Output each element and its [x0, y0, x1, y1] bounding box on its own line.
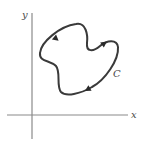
curve-c: [40, 24, 118, 95]
arrow-right-lobe-icon: [100, 39, 109, 48]
y-axis-label: y: [21, 9, 28, 20]
arrow-top-left-icon: [52, 35, 61, 44]
arrow-bottom-icon: [83, 85, 91, 94]
x-axis-label: x: [131, 109, 137, 120]
diagram: x y C: [0, 0, 145, 147]
curve-label: C: [113, 68, 121, 79]
